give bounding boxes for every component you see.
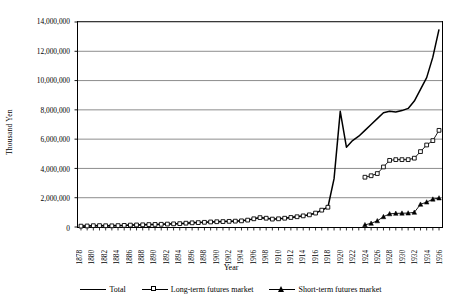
data-point bbox=[233, 219, 237, 223]
legend-item-square[interactable]: Long-term futures market bbox=[142, 285, 254, 294]
data-point bbox=[425, 143, 429, 147]
data-point bbox=[203, 220, 207, 224]
x-tick-label: 1916 bbox=[312, 250, 320, 264]
x-tick-label: 1926 bbox=[374, 250, 382, 264]
y-tick-label: 0 bbox=[66, 224, 70, 233]
data-point bbox=[135, 223, 139, 227]
data-point bbox=[178, 222, 182, 226]
data-point bbox=[184, 221, 188, 225]
y-axis-title: Thousand Yen bbox=[2, 72, 16, 192]
x-axis-title: Year bbox=[0, 263, 462, 272]
x-tick-label: 1902 bbox=[225, 250, 233, 264]
x-tick-label: 1894 bbox=[175, 250, 183, 264]
x-tick-label: 1884 bbox=[113, 250, 121, 264]
data-point bbox=[394, 158, 398, 162]
data-point bbox=[122, 224, 126, 228]
x-tick-label: 1912 bbox=[287, 250, 295, 264]
y-tick-label: 8,000,000 bbox=[40, 105, 70, 114]
data-point bbox=[91, 224, 95, 228]
data-point bbox=[215, 220, 219, 224]
data-point bbox=[406, 158, 410, 162]
plot-area bbox=[77, 21, 443, 228]
series-0 bbox=[81, 29, 439, 226]
x-tick-label: 1888 bbox=[138, 250, 146, 264]
data-point bbox=[326, 205, 330, 209]
data-point bbox=[246, 218, 250, 222]
chart-container: Thousand Yen 02,000,0004,000,0006,000,00… bbox=[0, 0, 462, 306]
x-tick-label: 1928 bbox=[386, 250, 394, 264]
data-point bbox=[424, 200, 429, 204]
x-tick-label: 1920 bbox=[337, 250, 345, 264]
x-tick-label: 1890 bbox=[150, 250, 158, 264]
x-tick-label: 1930 bbox=[399, 250, 407, 264]
data-point bbox=[227, 219, 231, 223]
data-point bbox=[301, 214, 305, 218]
data-point bbox=[375, 218, 380, 222]
data-point bbox=[419, 150, 423, 154]
x-tick-label: 1932 bbox=[411, 250, 419, 264]
x-tick-label: 1878 bbox=[76, 250, 84, 264]
y-tick-label: 4,000,000 bbox=[40, 164, 70, 173]
x-tick-label: 1904 bbox=[237, 250, 245, 264]
data-point bbox=[79, 224, 83, 228]
x-tick-label: 1896 bbox=[188, 250, 196, 264]
x-tick-label: 1922 bbox=[349, 250, 357, 264]
data-point bbox=[153, 223, 157, 227]
legend-marker-square-icon bbox=[142, 285, 168, 294]
legend-label: Total bbox=[109, 285, 125, 294]
data-point bbox=[240, 219, 244, 223]
legend-marker-tri-icon bbox=[269, 285, 295, 294]
data-point bbox=[314, 211, 318, 215]
x-tick-label: 1892 bbox=[163, 250, 171, 264]
data-point bbox=[283, 216, 287, 220]
x-tick-label: 1914 bbox=[299, 250, 307, 264]
data-point bbox=[85, 224, 89, 228]
x-tick-label: 1882 bbox=[101, 250, 109, 264]
legend-marker-line-icon bbox=[80, 285, 106, 294]
x-tick-label: 1900 bbox=[213, 250, 221, 264]
data-point bbox=[166, 222, 170, 226]
series-line bbox=[81, 130, 439, 226]
data-point bbox=[98, 224, 102, 228]
data-point bbox=[196, 221, 200, 225]
x-tick-label: 1880 bbox=[88, 250, 96, 264]
x-tick-label: 1936 bbox=[436, 250, 444, 264]
x-tick-label: 1906 bbox=[250, 250, 258, 264]
series-2 bbox=[363, 196, 442, 227]
data-point bbox=[147, 223, 151, 227]
data-point bbox=[400, 158, 404, 162]
y-axis-tick-labels: 02,000,0004,000,0006,000,0008,000,00010,… bbox=[16, 0, 74, 306]
y-tick-label: 6,000,000 bbox=[40, 135, 70, 144]
x-tick-label: 1918 bbox=[324, 250, 332, 264]
x-tick-label: 1908 bbox=[262, 250, 270, 264]
y-tick-label: 14,000,000 bbox=[37, 17, 70, 26]
y-tick-label: 12,000,000 bbox=[37, 46, 70, 55]
x-tick-label: 1910 bbox=[275, 250, 283, 264]
data-point bbox=[289, 216, 293, 220]
y-tick-label: 10,000,000 bbox=[37, 76, 70, 85]
data-point bbox=[412, 156, 416, 160]
data-point bbox=[307, 213, 311, 217]
data-point bbox=[209, 220, 213, 224]
legend-item-line[interactable]: Total bbox=[80, 285, 125, 294]
data-point bbox=[141, 223, 145, 227]
data-point bbox=[190, 221, 194, 225]
data-point bbox=[116, 224, 120, 228]
chart-legend: TotalLong-term futures marketShort-term … bbox=[0, 281, 462, 297]
x-tick-label: 1886 bbox=[126, 250, 134, 264]
data-point bbox=[172, 222, 176, 226]
data-point bbox=[277, 217, 281, 221]
series-line bbox=[81, 29, 439, 226]
data-point bbox=[270, 217, 274, 221]
x-tick-label: 1934 bbox=[424, 250, 432, 264]
data-point bbox=[221, 220, 225, 224]
data-point bbox=[295, 215, 299, 219]
y-tick-label: 2,000,000 bbox=[40, 194, 70, 203]
data-point bbox=[258, 216, 262, 220]
data-point bbox=[363, 175, 367, 179]
data-point bbox=[110, 224, 114, 228]
series-1 bbox=[79, 128, 441, 228]
legend-item-tri[interactable]: Short-term futures market bbox=[269, 285, 381, 294]
legend-label: Long-term futures market bbox=[171, 285, 254, 294]
plot-svg bbox=[78, 22, 442, 227]
